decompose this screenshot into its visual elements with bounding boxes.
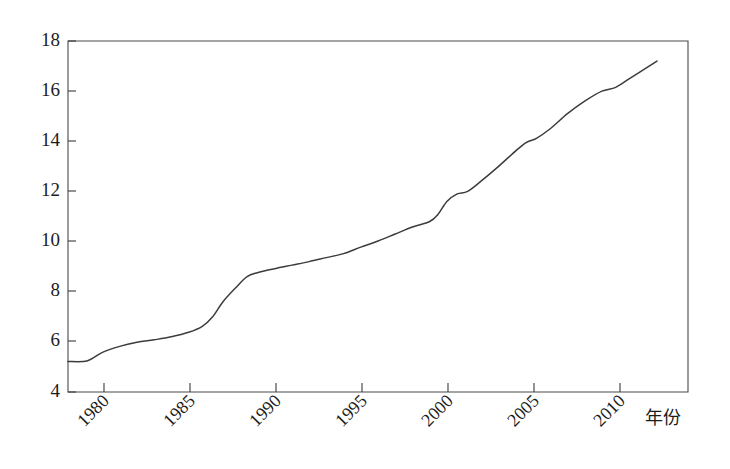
- x-axis-ticks: [104, 383, 620, 392]
- y-label-16: 16: [41, 79, 60, 100]
- line-chart: 18 16 14 12 10 8 6 4 1980 1985 1990 1995…: [0, 0, 730, 469]
- y-label-12: 12: [41, 179, 60, 200]
- y-axis-labels: 18 16 14 12 10 8 6 4: [41, 29, 61, 401]
- x-axis-labels: 1980 1985 1990 1995 2000 2005 2010: [73, 391, 629, 431]
- x-axis-title: 年份: [645, 407, 681, 428]
- y-label-14: 14: [41, 129, 61, 150]
- y-label-4: 4: [51, 380, 61, 401]
- chart-container: 18 16 14 12 10 8 6 4 1980 1985 1990 1995…: [0, 0, 730, 469]
- x-label-1990: 1990: [245, 391, 285, 431]
- x-label-1980: 1980: [73, 391, 113, 431]
- y-label-18: 18: [41, 29, 60, 50]
- x-label-2000: 2000: [417, 391, 457, 431]
- x-label-2010: 2010: [589, 391, 629, 431]
- y-label-6: 6: [51, 329, 61, 350]
- y-label-10: 10: [41, 229, 60, 250]
- y-axis-ticks: [68, 41, 76, 392]
- y-label-8: 8: [51, 279, 61, 300]
- x-label-1985: 1985: [159, 391, 199, 431]
- x-label-2005: 2005: [503, 391, 543, 431]
- data-series-line: [68, 61, 657, 362]
- x-label-1995: 1995: [331, 391, 371, 431]
